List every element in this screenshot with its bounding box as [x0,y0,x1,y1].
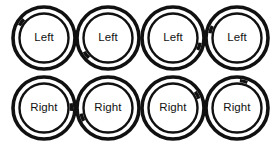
outer-ring [77,77,139,139]
ring-graphic [10,74,78,142]
ring-graphic [203,74,271,142]
inner-ring [213,84,262,133]
ring-left-2: Left [74,4,142,72]
inner-ring [149,14,198,63]
outer-ring [13,77,75,139]
ring-graphic [74,4,142,72]
ring-tick-mark [198,43,200,50]
ring-right-4: Right [203,74,271,142]
outer-ring [206,7,268,69]
outer-ring [77,7,139,69]
ring-right-2: Right [74,74,142,142]
ring-graphic [139,74,207,142]
outer-ring [206,77,268,139]
ring-graphic [74,74,142,142]
ring-left-4: Left [203,4,271,72]
ring-grid-figure: LeftLeftLeftLeftRightRightRightRight [0,0,277,146]
outer-ring [142,77,204,139]
ring-right-1: Right [10,74,78,142]
outer-ring [142,7,204,69]
ring-graphic [10,4,78,72]
outer-ring [13,7,75,69]
ring-graphic [139,4,207,72]
ring-left-3: Left [139,4,207,72]
inner-ring [149,84,198,133]
inner-ring [20,84,69,133]
inner-ring [84,84,133,133]
inner-ring [84,14,133,63]
ring-right-3: Right [139,74,207,142]
ring-left-1: Left [10,4,78,72]
ring-graphic [203,4,271,72]
inner-ring [213,14,262,63]
ring-tick-mark [240,81,247,83]
ring-tick-mark [210,26,212,33]
inner-ring [20,14,69,63]
